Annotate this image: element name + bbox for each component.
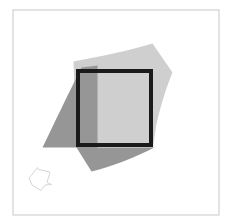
figure-container: Overlapping geometric shapes diagram	[0, 0, 231, 223]
geometric-shapes-canvas	[0, 0, 231, 223]
